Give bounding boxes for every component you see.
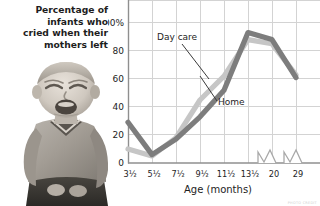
figure-title: Percentage of infants who cried when the… (4, 4, 108, 50)
y-tick-label-40: 40 (113, 102, 125, 112)
crying-infant-photo (16, 60, 116, 206)
figure-root: Percentage of infants who cried when the… (0, 0, 320, 206)
x-tick-label-6: 20 (269, 169, 279, 179)
x-tick-label-0: 3½ (123, 169, 136, 179)
x-tick-label-4: 11½ (217, 169, 235, 179)
y-tick-label-80: 80 (113, 46, 125, 56)
y-tick-label-100: 100% (108, 18, 124, 28)
x-tick-label-7: 29 (293, 169, 303, 179)
y-tick-label-60: 60 (113, 74, 125, 84)
x-tick-label-3: 9½ (195, 169, 208, 179)
line-chart: 100% 80 60 40 20 0 3½ 5½ 7½ 9½ 11½ 13½ 2… (108, 0, 320, 206)
series-label-home: Home (218, 97, 245, 107)
infant-photo-svg (16, 60, 116, 206)
x-axis-title: Age (months) (184, 184, 252, 195)
y-tick-label-20: 20 (113, 130, 125, 140)
y-tick-label-0: 0 (118, 158, 124, 168)
figure-title-line-3: cried when their (4, 27, 108, 39)
x-tick-label-2: 7½ (171, 169, 184, 179)
figure-title-line-1: Percentage of (4, 4, 108, 16)
line-chart-svg: 100% 80 60 40 20 0 3½ 5½ 7½ 9½ 11½ 13½ 2… (108, 0, 320, 206)
figure-title-line-4: mothers left (4, 39, 108, 51)
figure-title-line-2: infants who (4, 16, 108, 28)
x-tick-label-1: 5½ (147, 169, 160, 179)
x-tick-label-5: 13½ (241, 169, 259, 179)
series-label-day-care: Day care (157, 32, 198, 42)
photo-credit: PHOTO CREDIT (288, 201, 317, 205)
